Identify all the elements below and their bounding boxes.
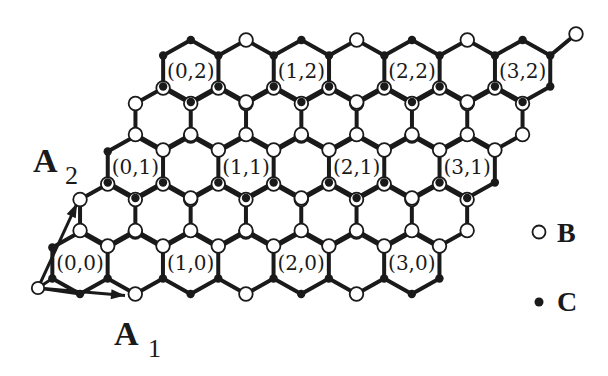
cell-label: (0,1)	[112, 155, 159, 179]
bond	[274, 40, 302, 56]
c-atom	[297, 98, 305, 106]
c-atom	[408, 98, 416, 106]
c-atom	[408, 36, 416, 44]
c-atom	[186, 290, 194, 298]
b-atom	[460, 128, 474, 142]
b-atom	[350, 33, 364, 47]
cell-label: (1,0)	[167, 251, 214, 275]
cell-label: (0,2)	[167, 59, 214, 83]
c-atom	[546, 51, 554, 59]
b-atom	[184, 191, 198, 205]
c-atom	[325, 274, 333, 282]
b-atom	[295, 191, 309, 205]
legend-item-c: C	[535, 286, 578, 317]
c-atom	[491, 51, 499, 59]
honeycomb-lattice-diagram: (0,0)(1,0)(2,0)(3,0)(0,1)(1,1)(2,1)(3,1)…	[0, 0, 608, 376]
c-atom	[159, 178, 167, 186]
b-atom	[239, 128, 253, 142]
bond	[301, 40, 329, 56]
c-atom	[242, 194, 250, 202]
open-circle-icon	[533, 226, 546, 239]
b-atom	[239, 224, 253, 238]
c-atom	[269, 178, 277, 186]
b-atom	[350, 128, 364, 142]
b-atom	[129, 128, 143, 142]
c-atom	[76, 290, 84, 298]
c-atom	[159, 82, 167, 90]
c-atom	[48, 274, 56, 282]
bond	[523, 40, 551, 56]
c-atom	[435, 274, 443, 282]
c-atom	[491, 178, 499, 186]
c-atom	[325, 178, 333, 186]
cell-label: (2,2)	[388, 59, 435, 83]
bond	[274, 279, 302, 295]
c-atom	[48, 243, 56, 251]
cell-label: (2,1)	[333, 155, 380, 179]
bond	[495, 40, 523, 56]
bond	[384, 279, 412, 295]
c-atom	[435, 178, 443, 186]
c-atom	[325, 82, 333, 90]
c-atom	[518, 36, 526, 44]
b-atom	[350, 224, 364, 238]
b-atom	[184, 224, 198, 238]
c-atom	[380, 178, 388, 186]
bond	[412, 40, 440, 56]
cell-label: (3,1)	[443, 155, 490, 179]
c-atom	[546, 82, 554, 90]
legend-item-b: B	[533, 217, 576, 248]
bond	[191, 40, 219, 56]
bond	[191, 279, 219, 295]
c-atom	[297, 290, 305, 298]
c-atom	[380, 274, 388, 282]
b-atom	[239, 95, 253, 109]
b-atom	[184, 128, 198, 142]
c-atom	[214, 274, 222, 282]
c-atom	[187, 98, 195, 106]
a2-subscript: 2	[65, 161, 78, 190]
b-atom	[569, 27, 583, 41]
bond	[163, 40, 191, 56]
c-atom	[159, 51, 167, 59]
b-atom	[239, 33, 253, 47]
b-atom	[129, 224, 143, 238]
c-atom	[131, 194, 139, 202]
cell-label: (2,0)	[277, 251, 324, 275]
b-atom	[405, 128, 419, 142]
b-atom	[129, 287, 143, 301]
b-atom	[405, 191, 419, 205]
c-atom	[380, 82, 388, 90]
a1-letter: A	[114, 315, 139, 352]
cell-label: (3,0)	[388, 251, 435, 275]
vector-label-a2: A 2	[33, 142, 78, 190]
b-atom	[516, 128, 530, 142]
c-atom	[380, 51, 388, 59]
c-atom	[269, 274, 277, 282]
b-atom	[73, 193, 87, 207]
c-atom	[104, 147, 112, 155]
b-atom	[294, 224, 308, 238]
b-atom	[405, 224, 419, 238]
b-atom	[73, 224, 87, 238]
filled-dot-icon	[535, 298, 544, 307]
c-atom	[518, 98, 526, 106]
c-atom	[491, 82, 499, 90]
bond	[301, 279, 329, 295]
vector-label-a1: A 1	[114, 315, 161, 363]
legend: B C	[533, 217, 578, 317]
c-atom	[104, 178, 112, 186]
a1-subscript: 1	[148, 334, 161, 363]
c-atom	[270, 82, 278, 90]
c-atom	[187, 36, 195, 44]
cell-label: (1,2)	[278, 59, 325, 83]
cell-label: (1,1)	[222, 155, 269, 179]
c-atom	[435, 51, 443, 59]
b-atom	[460, 224, 474, 238]
legend-label-b: B	[557, 217, 576, 248]
b-atom	[239, 287, 253, 301]
c-atom	[435, 82, 443, 90]
c-atom	[325, 51, 333, 59]
bond	[163, 279, 191, 295]
c-atom	[270, 51, 278, 59]
